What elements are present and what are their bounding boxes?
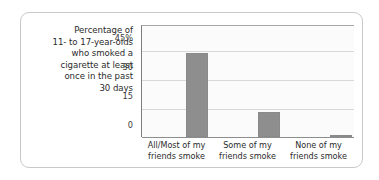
axis-baseline-0 [142, 137, 354, 138]
bar-all-most-friends-smoke[interactable] [186, 53, 208, 137]
caption-line-3: who smoked a [25, 48, 133, 60]
x-axis-category-labels: All/Most of my friends smoke Some of my … [141, 140, 354, 166]
x-label-some-friends-smoke: Some of my friends smoke [212, 140, 283, 166]
x-label-line-1: All/Most of my [141, 140, 212, 151]
y-axis-tick-0: 0 [93, 120, 133, 130]
x-label-line-1: Some of my [212, 140, 283, 151]
x-label-line-1: None of my [283, 140, 354, 151]
plot-area [141, 25, 354, 137]
x-label-line-2: friends smoke [212, 151, 283, 162]
x-label-line-2: friends smoke [141, 151, 212, 162]
y-axis-tick-45: 45% [93, 33, 133, 43]
gridline-45 [142, 51, 354, 52]
x-label-none-friends-smoke: None of my friends smoke [283, 140, 354, 166]
x-label-line-2: friends smoke [283, 151, 354, 162]
chart-card: Percentage of 11- to 17-year-olds who sm… [20, 12, 363, 168]
gridline-15 [142, 109, 354, 110]
gridline-30 [142, 80, 354, 81]
caption-line-5: once in the past [25, 71, 133, 83]
bar-none-friends-smoke[interactable] [330, 135, 352, 137]
y-axis-tick-30: 30 [93, 62, 133, 72]
x-label-all-most-friends-smoke: All/Most of my friends smoke [141, 140, 212, 166]
y-axis-tick-15: 15 [93, 91, 133, 101]
bar-some-friends-smoke[interactable] [258, 112, 280, 137]
